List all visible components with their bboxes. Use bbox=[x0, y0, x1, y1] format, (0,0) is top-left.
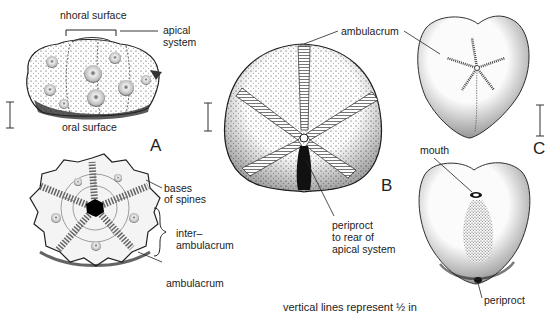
panel-c-aboral-view bbox=[404, 16, 529, 138]
panel-letter-b: B bbox=[381, 177, 392, 194]
label-ambulacrum-b: ambulacrum bbox=[341, 26, 399, 37]
label-mouth: mouth bbox=[420, 145, 449, 156]
panel-letter-a: A bbox=[150, 137, 161, 154]
label-periproct-b-1: periproct bbox=[332, 220, 373, 231]
label-ambulacrum-a: ambulacrum bbox=[166, 278, 224, 289]
label-interambulacrum-1: inter– bbox=[176, 228, 202, 239]
panel-a-side-view bbox=[27, 30, 162, 120]
label-apical-system-2: system bbox=[163, 37, 196, 48]
scale-bar-b bbox=[204, 103, 212, 131]
panel-c-oral-view bbox=[419, 158, 530, 298]
label-aboral-surface: nhoral surface bbox=[60, 10, 127, 21]
figure-caption: vertical lines represent ½ in bbox=[283, 301, 417, 313]
figure-drawings bbox=[0, 0, 554, 320]
label-apical-system-1: apical bbox=[163, 25, 190, 36]
panel-a-oral-view bbox=[30, 154, 166, 266]
label-periproct-b-3: apical system bbox=[332, 244, 396, 255]
scale-bar-a bbox=[6, 102, 14, 128]
scale-bar-c bbox=[536, 105, 544, 136]
label-periproct-c: periproct bbox=[484, 295, 525, 306]
echinoid-figure: nhoral surface apical system oral surfac… bbox=[0, 0, 554, 320]
label-periproct-b-2: to rear of bbox=[332, 232, 374, 243]
panel-b-view bbox=[225, 31, 382, 216]
panel-letter-c: C bbox=[533, 140, 545, 157]
label-oral-surface: oral surface bbox=[62, 122, 117, 133]
label-bases-of-spines-2: of spines bbox=[164, 194, 206, 205]
label-interambulacrum-2: ambulacrum bbox=[176, 240, 234, 251]
